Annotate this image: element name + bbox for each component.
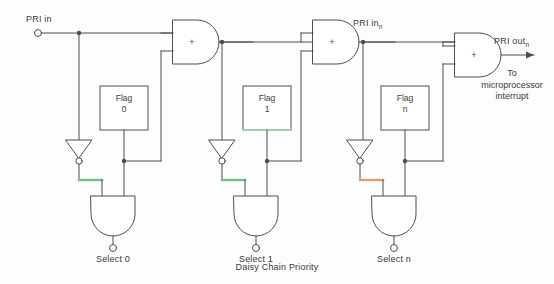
select-and-gate-0-body [91,196,135,236]
inverter-0-bubble [76,158,82,164]
pri-in-n-text: PRI in [353,18,379,28]
and-gate-0-body [173,20,219,64]
pri-out-n-label: PRI outn [494,36,529,48]
select-n-label: Select n [377,254,411,264]
figure-canvas: PRI in PRI inn PRI outn To microprocesso… [0,0,554,284]
to-micro-line-1: To [481,68,543,80]
pri-out-arrowhead [526,52,534,59]
inverter-n-bubble [357,158,363,164]
select-1-terminal[interactable] [253,245,260,252]
daisy-chain-priority-diagram [0,0,554,284]
flag-n-line-2: n [397,104,414,115]
flag-label-n: Flag n [397,93,414,115]
flag-label-0: Flag 0 [116,93,133,115]
pri-in-terminal[interactable] [35,30,42,37]
pri-in-n-label: PRI inn [353,18,383,30]
figure-caption: Daisy Chain Priority [235,262,318,272]
flag-label-1: Flag 1 [259,93,276,115]
inverter-1-body [209,140,235,158]
junction-flag0-out [122,159,126,163]
to-microprocessor-note: To microprocessor interrupt [481,68,543,103]
and-gate-1-symbol: + [329,37,334,47]
select-0-terminal[interactable] [110,245,117,252]
inverter-0-body [66,140,92,158]
pri-in-n-subscript: n [379,23,383,30]
junction-flagn-out [403,159,407,163]
flag-n-line-1: Flag [397,93,414,104]
pri-out-n-text: PRI out [494,36,525,46]
pri-out-n-subscript: n [525,41,529,48]
flag-0-line-1: Flag [116,93,133,104]
flag-1-line-2: 1 [259,104,276,115]
select-0-label: Select 0 [96,254,130,264]
to-micro-line-3: interrupt [481,91,543,103]
select-n-terminal[interactable] [391,245,398,252]
inverter-n-body [347,140,373,158]
junction-flag1-out [265,159,269,163]
pri-in-label: PRI in [26,14,52,24]
inverter-1-bubble [219,158,225,164]
select-and-gate-n-body [372,196,416,236]
select-and-gate-1-body [234,196,278,236]
flag-0-line-2: 0 [116,104,133,115]
to-micro-line-2: microprocessor [481,80,543,92]
and-gate-n-symbol: + [471,50,476,60]
flag-1-line-1: Flag [259,93,276,104]
and-gate-0-symbol: + [189,37,194,47]
